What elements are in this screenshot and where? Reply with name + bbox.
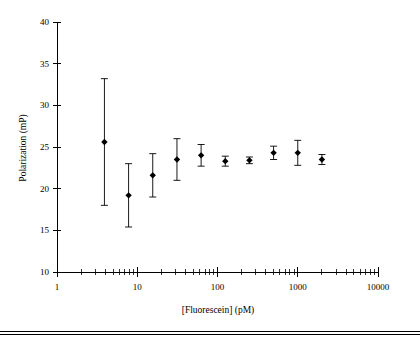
x-axis-tick-label: 100 — [211, 282, 225, 292]
figure-container: 10152025303540 110100100010000 [Fluoresc… — [0, 0, 420, 341]
y-axis-tick-label: 25 — [40, 142, 50, 152]
polarization-vs-fluorescein-chart: 10152025303540 110100100010000 [Fluoresc… — [0, 0, 420, 341]
y-axis-tick-label: 40 — [40, 17, 50, 27]
x-axis-title: [Fluorescein] (pM) — [182, 305, 255, 316]
footer-rule-bottom — [0, 334, 420, 335]
y-axis-tick-label: 10 — [40, 267, 50, 277]
x-axis-tick-label: 1000 — [289, 282, 308, 292]
y-axis-tick-label: 15 — [40, 225, 50, 235]
x-axis-tick-label: 10 — [133, 282, 143, 292]
x-axis-tick-label: 1 — [55, 282, 60, 292]
y-axis-title: Polarization (mP) — [18, 114, 29, 181]
y-axis-tick-label: 35 — [40, 59, 50, 69]
x-axis-tick-label: 10000 — [367, 282, 390, 292]
y-axis-tick-label: 20 — [40, 184, 50, 194]
y-axis-tick-label: 30 — [40, 100, 50, 110]
footer-rule-top — [0, 331, 420, 332]
